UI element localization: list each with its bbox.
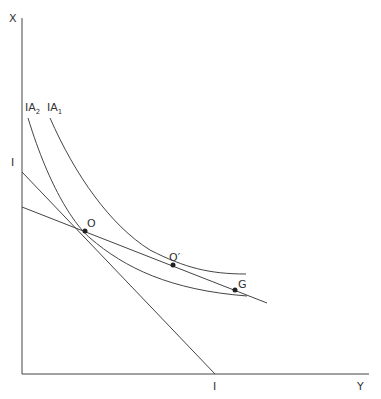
intercept-label-horizontal: I xyxy=(213,380,216,393)
intercept-label-vertical: I xyxy=(11,156,14,169)
indifference-diagram: X Y I I IA2 IA1 O O′ G xyxy=(0,0,381,399)
indifference-curve-ia2 xyxy=(28,118,247,296)
axis-label-y: Y xyxy=(356,380,364,393)
curve-label-ia1: IA1 xyxy=(47,101,62,116)
budget-line-shallow xyxy=(22,207,267,303)
point-label-o: O xyxy=(87,217,96,230)
curve-label-ia2: IA2 xyxy=(25,101,40,116)
point-g xyxy=(233,288,238,293)
axis-label-x: X xyxy=(9,12,17,25)
point-label-g: G xyxy=(238,278,247,291)
budget-line-steep xyxy=(22,172,215,374)
indifference-curve-ia1 xyxy=(50,118,246,274)
point-label-o-prime: O′ xyxy=(169,251,181,264)
